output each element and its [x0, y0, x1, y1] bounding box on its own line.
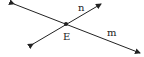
label-n: n [78, 2, 85, 13]
label-e: E [63, 31, 70, 42]
diagram-canvas: n E m [0, 0, 144, 57]
line-m [14, 4, 140, 53]
point-e [64, 22, 68, 26]
label-m: m [107, 27, 117, 38]
